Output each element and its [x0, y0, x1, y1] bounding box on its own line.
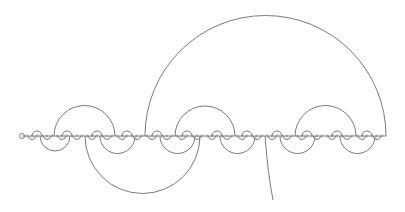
tail-curve [265, 136, 273, 200]
arc-diagram [0, 0, 405, 212]
arc-diagram-canvas [0, 0, 405, 212]
medium-arc-above [54, 106, 115, 136]
arcs-group [29, 16, 387, 194]
